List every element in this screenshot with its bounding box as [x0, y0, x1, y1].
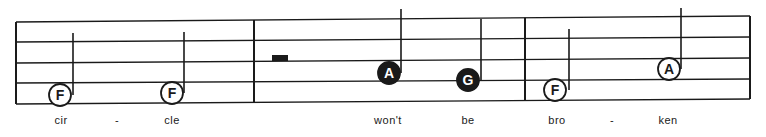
note-a: A	[658, 8, 681, 80]
staff-line	[16, 99, 750, 104]
note-letter: F	[168, 85, 177, 101]
lyric-hyphen: -	[115, 114, 119, 126]
rests	[272, 55, 288, 61]
note-f: F	[544, 29, 569, 101]
lyric-syllable: be	[461, 114, 474, 126]
lyric-syllable: cle	[164, 114, 180, 126]
lyric-syllable: cir	[54, 114, 67, 126]
note-letter: G	[463, 72, 474, 88]
note-letter: A	[384, 65, 394, 81]
staff-lines	[16, 16, 750, 104]
staff-line	[16, 37, 750, 42]
note-letter: F	[551, 82, 560, 98]
lyric-syllable: ken	[658, 114, 677, 126]
lyric-syllable: bro	[548, 114, 565, 126]
staff-line	[16, 58, 750, 63]
lyric-hyphen: -	[610, 114, 614, 126]
note-letter: F	[56, 87, 65, 103]
note-a: A	[378, 9, 401, 84]
notes: FFAGFA	[49, 8, 681, 106]
lyric-syllable: won't	[374, 114, 402, 126]
staff-line	[16, 16, 750, 22]
note-f: F	[49, 33, 73, 106]
half-rest-icon	[272, 55, 288, 61]
note-g: G	[457, 19, 481, 91]
note-letter: A	[664, 61, 674, 77]
note-f: F	[161, 32, 184, 104]
